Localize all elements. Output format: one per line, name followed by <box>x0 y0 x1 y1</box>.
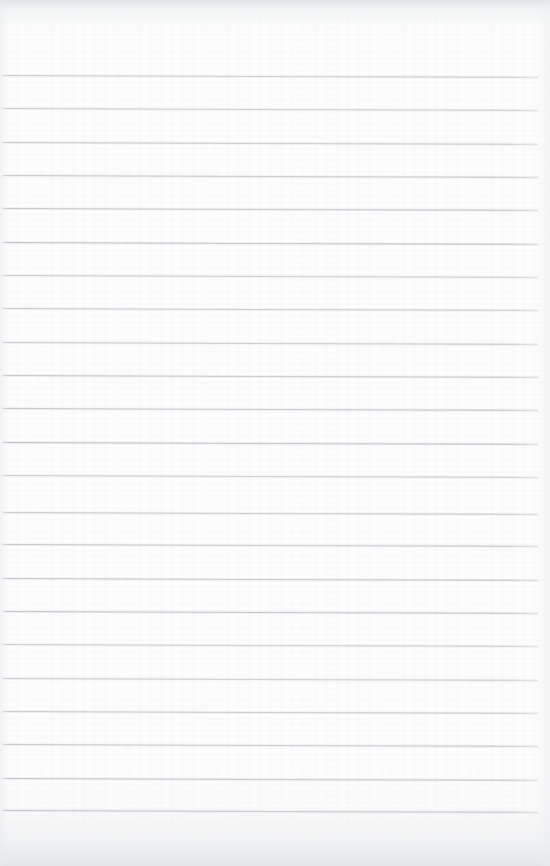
ruled-line <box>2 644 538 647</box>
ruled-line <box>2 275 538 278</box>
ruled-line <box>2 544 538 547</box>
ruled-line <box>2 375 538 378</box>
ruled-line <box>2 711 538 714</box>
ruled-line <box>2 778 538 781</box>
ruled-line <box>2 242 538 245</box>
ruled-line <box>2 108 538 111</box>
page-footer-blank-area <box>0 812 550 866</box>
ruled-line <box>2 142 538 145</box>
ruled-line <box>2 475 538 478</box>
ruled-line <box>2 308 538 311</box>
notepad-page <box>0 0 550 866</box>
ruled-line <box>2 678 538 681</box>
ruled-line <box>2 611 538 614</box>
ruled-line <box>2 208 538 211</box>
ruled-lines-group <box>0 0 550 866</box>
ruled-line <box>2 75 538 78</box>
ruled-line <box>2 744 538 747</box>
ruled-line <box>2 175 538 178</box>
ruled-line <box>2 512 538 515</box>
ruled-line <box>2 578 538 581</box>
ruled-line <box>2 442 538 445</box>
ruled-line <box>2 342 538 345</box>
ruled-line <box>2 408 538 411</box>
